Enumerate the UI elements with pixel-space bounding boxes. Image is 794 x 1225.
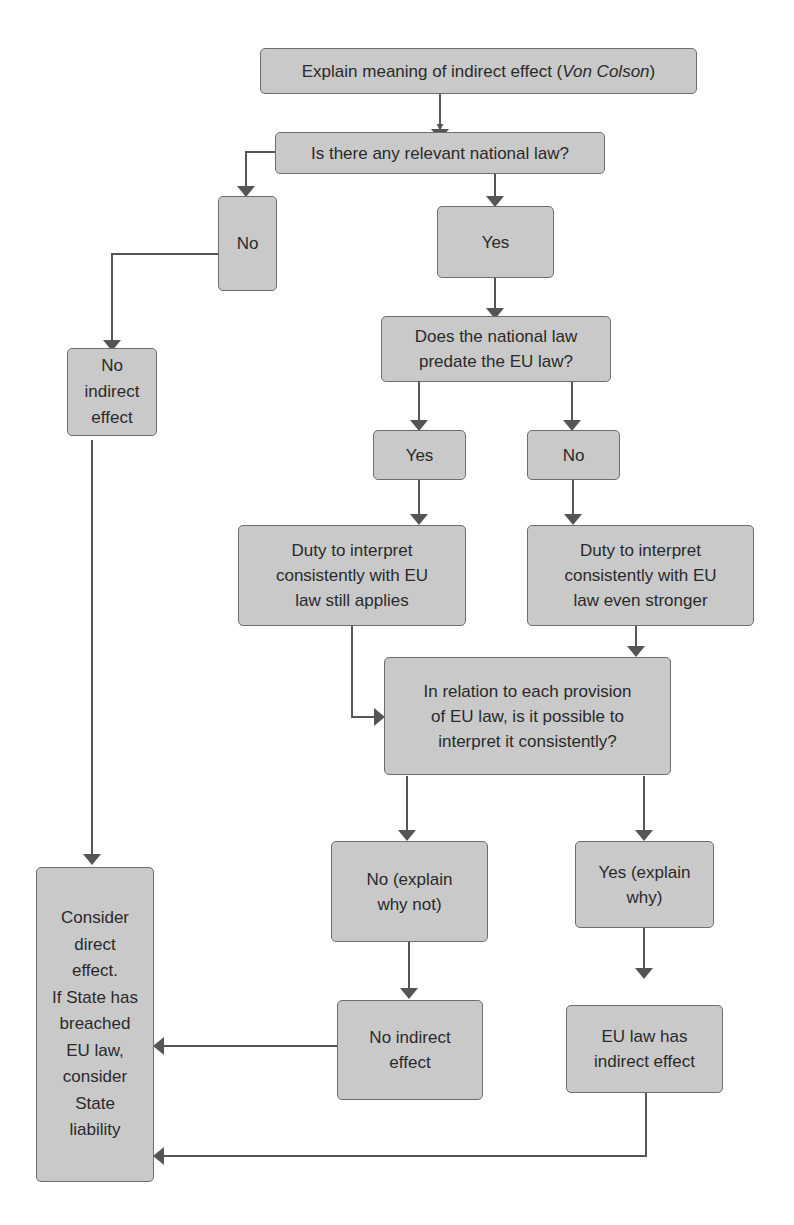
node-predate-yes: Yes	[373, 430, 466, 480]
line: law still applies	[276, 588, 428, 613]
node-possible-no: No (explain why not)	[331, 841, 488, 942]
line: Does the national law	[415, 324, 578, 349]
line: breached	[52, 1011, 138, 1038]
line: direct	[52, 932, 138, 959]
node-duty-applies: Duty to interpret consistently with EU l…	[238, 525, 466, 626]
yes-national-law-text: Yes	[482, 230, 510, 255]
line: indirect	[85, 379, 140, 405]
line: predate the EU law?	[415, 349, 578, 374]
predate-yes-text: Yes	[406, 443, 434, 468]
line: EU law has	[594, 1024, 695, 1049]
q-national-law-text: Is there any relevant national law?	[311, 141, 569, 166]
node-yes-national-law: Yes	[437, 206, 554, 278]
line: of EU law, is it possible to	[424, 704, 632, 729]
line: If State has	[52, 985, 138, 1012]
node-no-indirect-effect: No indirect effect	[337, 1000, 483, 1100]
line: effect	[369, 1050, 450, 1075]
line: State	[52, 1091, 138, 1118]
line: No indirect	[369, 1025, 450, 1050]
line: effect	[85, 405, 140, 431]
line: consistently with EU	[276, 563, 428, 588]
node-consider-direct-effect: Consider direct effect. If State has bre…	[36, 867, 154, 1182]
line: Duty to interpret	[276, 538, 428, 563]
node-q-predate: Does the national law predate the EU law…	[381, 316, 611, 382]
line: indirect effect	[594, 1049, 695, 1074]
line: law even stronger	[564, 588, 716, 613]
node-start: Explain meaning of indirect effect (Von …	[260, 48, 697, 94]
line: EU law,	[52, 1038, 138, 1065]
node-predate-no: No	[527, 430, 620, 480]
node-q-possible: In relation to each provision of EU law,…	[384, 657, 671, 775]
node-no-indirect-effect-left: No indirect effect	[67, 348, 157, 436]
line: why)	[599, 885, 691, 910]
line: consistently with EU	[564, 563, 716, 588]
line: Consider	[52, 905, 138, 932]
node-no-national-law: No	[218, 196, 277, 291]
line: Duty to interpret	[564, 538, 716, 563]
line: interpret it consistently?	[424, 729, 632, 754]
start-label: Explain meaning of indirect effect (Von …	[302, 59, 655, 84]
no-national-law-text: No	[237, 231, 259, 256]
line: consider	[52, 1064, 138, 1091]
node-duty-stronger: Duty to interpret consistently with EU l…	[527, 525, 754, 626]
line: In relation to each provision	[424, 679, 632, 704]
line: Yes (explain	[599, 860, 691, 885]
line: liability	[52, 1117, 138, 1144]
line: effect.	[52, 958, 138, 985]
line: No (explain	[367, 867, 453, 892]
line: why not)	[367, 892, 453, 917]
start-text-end: )	[650, 62, 656, 81]
flowchart-canvas: Explain meaning of indirect effect (Von …	[0, 0, 794, 1225]
node-q-national-law: Is there any relevant national law?	[275, 132, 605, 174]
start-text: Explain meaning of indirect effect (	[302, 62, 563, 81]
node-possible-yes: Yes (explain why)	[575, 841, 714, 928]
predate-no-text: No	[563, 443, 585, 468]
start-case-name: Von Colson	[562, 62, 649, 81]
node-has-indirect-effect: EU law has indirect effect	[566, 1005, 723, 1093]
line: No	[85, 353, 140, 379]
